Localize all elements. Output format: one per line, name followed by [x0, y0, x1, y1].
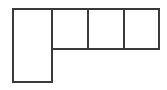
l-shape-diagram	[0, 0, 167, 90]
figure-container	[0, 0, 167, 90]
